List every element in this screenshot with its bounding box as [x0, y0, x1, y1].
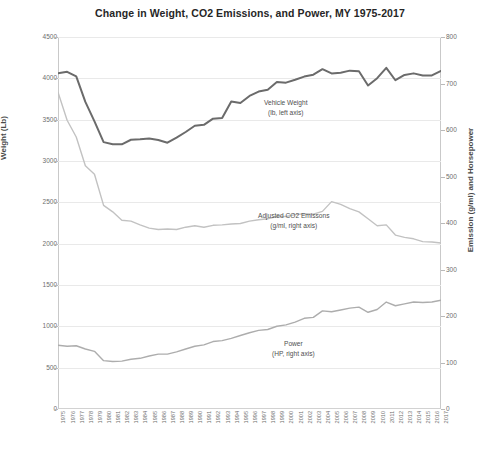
x-axis-tick-label: 2016	[434, 411, 440, 445]
y-axis-left-tick-label: 3500	[17, 116, 57, 123]
series-annotation-units: (g/ml, right axis)	[258, 221, 329, 231]
y-axis-right-tickmark	[441, 177, 445, 178]
x-axis-tick-label: 2009	[370, 411, 376, 445]
x-axis-tick-label: 1984	[142, 411, 148, 445]
x-axis-tick-label: 1985	[152, 411, 158, 445]
x-axis-tick-label: 1992	[215, 411, 221, 445]
y-axis-left-tick-label: 2000	[17, 240, 57, 247]
series-annotation-units: (lb, left axis)	[264, 108, 308, 118]
y-axis-right-title: Emission (g/ml) and Horsepower	[466, 110, 475, 270]
y-axis-left-tickmark	[54, 78, 58, 79]
series-annotation-units: (HP, right axis)	[272, 349, 315, 359]
y-axis-left-tickmark	[54, 37, 58, 38]
y-axis-left-tickmark	[54, 285, 58, 286]
chart-container: Change in Weight, CO2 Emissions, and Pow…	[0, 0, 500, 450]
x-axis-tick-label: 1991	[206, 411, 212, 445]
x-axis-tick-label: 2008	[361, 411, 367, 445]
plot-area	[58, 37, 441, 409]
y-axis-left-tick-label: 4500	[17, 33, 57, 40]
x-axis-tick-label: 1979	[97, 411, 103, 445]
y-axis-left-tickmark	[54, 244, 58, 245]
y-axis-left-tick-label: 2500	[17, 198, 57, 205]
y-axis-right-tick-label: 100	[446, 359, 486, 366]
x-axis-tick-label: 1988	[179, 411, 185, 445]
y-axis-right-tick-label: 200	[446, 312, 486, 319]
series-annotation-name: Vehicle Weight	[264, 99, 308, 106]
x-axis-tick-label: 2004	[325, 411, 331, 445]
y-axis-left-tickmark	[54, 161, 58, 162]
x-axis-tick-label: 1998	[270, 411, 276, 445]
series-annotation: Vehicle Weight(lb, left axis)	[264, 98, 308, 117]
y-axis-left-tickmark	[54, 326, 58, 327]
y-axis-left-tick-label: 3000	[17, 157, 57, 164]
x-axis-ticks: 1975197619771978197919801981198219831984…	[58, 411, 441, 447]
series-annotation-name: Adjusted CO2 Emissons	[258, 212, 329, 219]
x-axis-tick-label: 1989	[188, 411, 194, 445]
y-axis-right-tickmark	[441, 363, 445, 364]
series-annotation: Adjusted CO2 Emissons(g/ml, right axis)	[258, 211, 329, 230]
x-axis-tick-label: 2000	[288, 411, 294, 445]
x-axis-tick-label: 1996	[252, 411, 258, 445]
y-axis-left-tickmark	[54, 368, 58, 369]
x-axis-tick-label: 1982	[124, 411, 130, 445]
x-axis-tick-label: 2003	[316, 411, 322, 445]
series-annotation: Power(HP, right axis)	[272, 339, 315, 358]
x-axis-tick-label: 1987	[170, 411, 176, 445]
x-axis-tick-label: 1980	[106, 411, 112, 445]
x-axis-tick-label: 2007	[352, 411, 358, 445]
x-axis-tick-label: 2002	[307, 411, 313, 445]
x-axis-tick-label: 1978	[88, 411, 94, 445]
x-axis-tick-label: 2001	[298, 411, 304, 445]
series-line	[58, 92, 441, 243]
x-axis-tick-label: 1993	[225, 411, 231, 445]
x-axis-tick-label: 2010	[380, 411, 386, 445]
x-axis-tick-label: 2005	[334, 411, 340, 445]
y-axis-right-tick-label: 700	[446, 80, 486, 87]
y-axis-right-tickmark	[441, 316, 445, 317]
x-axis-tick-label: 2013	[407, 411, 413, 445]
chart-title: Change in Weight, CO2 Emissions, and Pow…	[0, 7, 500, 19]
y-axis-right-tickmark	[441, 84, 445, 85]
x-axis-tick-label: 2012	[398, 411, 404, 445]
y-axis-right-tick-label: 800	[446, 33, 486, 40]
series-lines	[58, 37, 441, 409]
x-axis-tick-label: 1997	[261, 411, 267, 445]
x-axis-tick-label: 1983	[133, 411, 139, 445]
y-axis-right-tick-label: 300	[446, 266, 486, 273]
y-axis-left-tickmark	[54, 409, 58, 410]
x-axis-tick-label: 1994	[234, 411, 240, 445]
x-axis-tick-label: 1981	[115, 411, 121, 445]
y-axis-left-tickmark	[54, 202, 58, 203]
x-axis-tick-label: 1976	[70, 411, 76, 445]
y-axis-left-tickmark	[54, 120, 58, 121]
y-axis-left-title: Weight (Lb)	[0, 78, 8, 198]
y-axis-right-tickmark	[441, 223, 445, 224]
x-axis-tick-label: 2011	[389, 411, 395, 445]
x-axis-tick-label: 1995	[243, 411, 249, 445]
x-axis-tick-label: 1990	[197, 411, 203, 445]
x-axis-tick-label: 1977	[79, 411, 85, 445]
x-axis-tick-label: 1999	[279, 411, 285, 445]
series-annotation-name: Power	[284, 340, 303, 347]
y-axis-left-tick-label: 1000	[17, 322, 57, 329]
x-axis-tick-label: 2015	[425, 411, 431, 445]
series-line	[58, 68, 441, 144]
x-axis-tick-label: 1986	[161, 411, 167, 445]
y-axis-left-tick-label: 1500	[17, 281, 57, 288]
x-axis-tick-label: 2014	[416, 411, 422, 445]
y-axis-right-tickmark	[441, 270, 445, 271]
y-axis-right-tick-label: 400	[446, 219, 486, 226]
y-axis-left-tick-label: 500	[17, 364, 57, 371]
x-axis-tick-label: 1975	[60, 411, 66, 445]
series-line	[58, 300, 441, 361]
y-axis-right-tick-label: 500	[446, 173, 486, 180]
y-axis-right-tick-label: 600	[446, 126, 486, 133]
y-axis-right-tickmark	[441, 409, 445, 410]
y-axis-right-tick-label: 0	[446, 405, 486, 412]
y-axis-left-tick-label: 4000	[17, 74, 57, 81]
y-axis-right-tickmark	[441, 130, 445, 131]
x-axis-tick-label: 2017	[443, 411, 449, 445]
y-axis-right-tickmark	[441, 37, 445, 38]
y-axis-left-tick-label: 0	[17, 405, 57, 412]
x-axis-tick-label: 2006	[343, 411, 349, 445]
